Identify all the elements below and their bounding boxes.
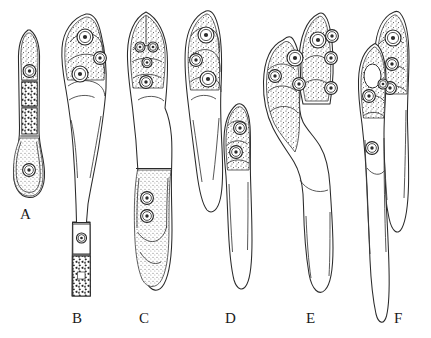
nucleus [325,52,338,65]
panel-label-d: D [225,310,236,327]
nucleus [94,52,107,65]
granular-segment-a1 [22,82,38,106]
nucleus [378,79,388,89]
nucleus [77,233,87,243]
nucleus [140,76,153,89]
nucleus [77,29,93,45]
nucleus [135,42,145,52]
nucleus [198,27,214,43]
nucleus [141,192,154,205]
nucleus [310,32,326,48]
nucleus [72,66,88,82]
panel-label-f: F [394,310,403,327]
nucleus [385,30,401,46]
nucleus [148,42,158,52]
nucleus [200,71,216,87]
panel-label-e: E [306,310,316,327]
nucleus [363,90,376,103]
nucleus [234,122,247,135]
nucleus [190,54,203,67]
nucleus [366,142,379,155]
panel-label-a: A [20,206,31,223]
nucleus [23,65,36,78]
nucleus [230,146,243,159]
panel-label-c: C [139,310,150,327]
nucleus [269,70,282,83]
nucleus [325,82,338,95]
nucleus [386,58,399,71]
granular-segment-a2 [22,108,37,134]
nucleus [293,78,306,91]
nucleus [23,164,36,177]
plate-drawing [0,0,431,338]
nucleus [287,50,303,66]
nucleus [142,58,152,68]
nucleus [141,210,154,223]
figure-plate: A B C D E F [0,0,431,338]
panel-label-b: B [72,310,83,327]
nucleus [326,30,339,43]
